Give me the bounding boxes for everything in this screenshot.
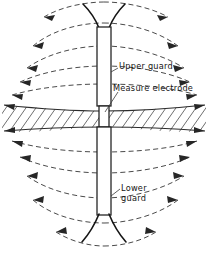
field-line-lower-3 [27,176,104,198]
arrowhead-icon [33,42,44,49]
field-line-lower-4r [104,200,178,223]
field-line-lower-2 [20,157,104,173]
arrowhead-icon [27,172,38,179]
label-upper-guard: Upper guard [119,61,173,71]
label-lower-guard-line1: Lower [121,183,147,193]
leader-lower-guard [111,189,120,196]
guarded-electrode-diagram: Upper guard Measure electrode Lower guar… [0,0,213,257]
arrowhead-icon [167,42,178,49]
field-line-upper-1r [104,2,168,17]
field-line-upper-1 [44,2,104,17]
field-line-lower-1r [104,141,197,152]
field-line-upper-2r [104,23,178,46]
field-line-lower-1 [12,141,104,152]
figure-container: Upper guard Measure electrode Lower guar… [0,0,213,257]
lead-wire-bottom-left [82,214,99,242]
field-line-lower-4 [33,200,104,223]
arrowhead-icon [157,15,168,21]
arrowhead-icon [173,172,184,179]
upper-lead-wires [83,4,125,28]
field-line-lower-5r [104,232,156,246]
field-line-upper-5 [12,84,104,95]
arrowhead-icon [186,94,197,100]
arrowhead-icon [179,155,190,162]
arrowhead-icon [12,141,23,147]
label-measure-electrode: Measure electrode [113,83,193,93]
arrowhead-icon [12,94,23,100]
lead-wire-bottom-right [109,214,126,242]
field-line-lower-5 [56,232,104,246]
field-line-upper-3 [27,46,104,68]
leader-upper-guard [111,68,118,72]
lead-wire-top-left [83,4,99,28]
lower-guard-tube [97,127,111,215]
upper-guard-tube [97,27,111,106]
arrowhead-icon [27,65,38,72]
label-lower-guard-line2: guard [121,193,146,203]
arrowhead-icon [167,196,178,203]
measure-electrode [99,106,109,127]
arrowhead-icon [20,155,31,162]
arrowhead-icon [186,141,197,147]
field-line-lower-2r [104,157,190,173]
arrowhead-icon [173,65,184,72]
lower-lead-wires [82,214,126,242]
